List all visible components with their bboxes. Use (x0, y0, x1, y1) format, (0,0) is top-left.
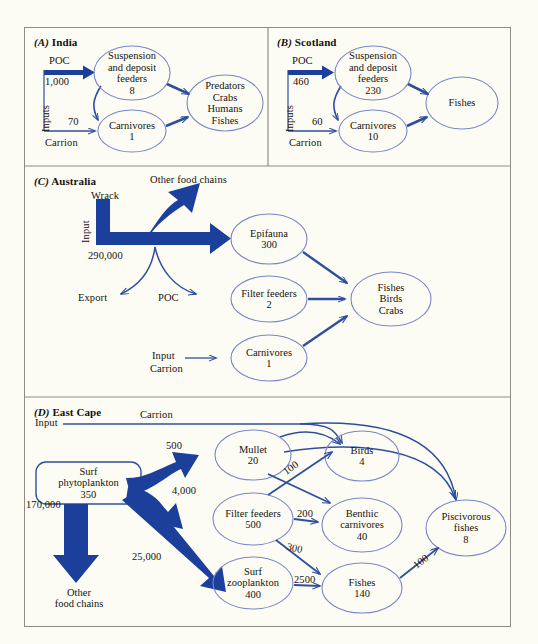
panel-d-carrion-label: Carrion (140, 409, 173, 420)
node-carnivores-b: Carnivores10 (341, 119, 405, 143)
panel-d-input-label: Input (35, 417, 58, 428)
panel-b-title: (B) Scotland (277, 36, 337, 48)
panel-c-carrion-input-label: Input (152, 350, 175, 361)
panel-b-inputs-label: Inputs (284, 105, 295, 132)
panel-a-carrion-value: 70 (68, 116, 79, 127)
arrow-carnivores-to-fishes-b (407, 117, 427, 126)
node-carnivores-a: Carnivores1 (100, 119, 164, 143)
node-suspension-deposit-feeders-b: Suspensionand depositfeeders230 (337, 50, 409, 96)
node-mullet-d: Mullet20 (224, 443, 282, 467)
panel-a-poc-value: 1,000 (45, 76, 69, 87)
panel-d-other-food-chains-label: Otherfood chains (44, 586, 114, 610)
panel-d-value-other-food-chains: 170,000 (26, 499, 61, 510)
panel-b-carrion-value: 60 (312, 116, 323, 127)
panel-b-poc-label: POC (292, 55, 313, 66)
node-benthic-carnivores-d: Benthiccarnivores40 (326, 507, 398, 543)
panel-c-other-food-chains-label: Other food chains (150, 174, 227, 185)
arrow-feeders-to-fishes-b (408, 84, 428, 94)
node-piscivorous-fishes-d: Piscivorousfishes8 (430, 510, 502, 546)
node-fishes-birds-crabs-c: FishesBirdsCrabs (361, 281, 421, 317)
node-suspension-deposit-feeders-a: Suspensionand depositfeeders8 (96, 50, 168, 96)
panel-c-wrack-value: 290,000 (88, 250, 123, 261)
panel-a-carrion-label: Carrion (45, 137, 78, 148)
node-filter-feeders-d: Filter feeders500 (216, 507, 290, 531)
node-surf-zooplankton-d: Surfzooplankton400 (216, 565, 290, 601)
panel-c-poc-label: POC (158, 292, 179, 303)
panel-d-value-zoo-to-fishes: 2500 (294, 574, 315, 585)
panel-c-title: (C) Australia (34, 175, 96, 187)
panel-d-value-mullet: 500 (166, 440, 182, 451)
panel-c-input-label: Input (80, 220, 91, 243)
node-carnivores-c: Carnivores1 (236, 346, 302, 370)
panel-d-value-filter-to-benthic: 200 (297, 508, 313, 519)
arrow-zoo-to-fishes-d (294, 585, 320, 586)
arrow-epifauna-to-top-c (303, 252, 347, 283)
panel-a-title: (A) India (34, 36, 77, 48)
panel-d-value-surf-zooplankton: 25,000 (132, 551, 161, 562)
arrow-carnivores-to-top-c (303, 316, 347, 346)
node-filter-feeders-c: Filter feeders2 (232, 287, 306, 311)
node-surf-phytoplankton-d: Surfphytoplankton350 (40, 465, 137, 501)
panel-a-inputs-label: Inputs (40, 105, 51, 132)
arrow-filter-to-benthic-d (294, 519, 318, 522)
curve-poc-to-filter-c (155, 247, 196, 294)
arrow-carnivores-to-predators-a (166, 117, 188, 126)
panel-b-carrion-label: Carrion (289, 137, 322, 148)
arrow-feeders-to-predators-a (167, 84, 189, 94)
panel-c-wrack-label: Wrack (91, 190, 119, 201)
arrow-phyto-to-other-d (53, 504, 99, 583)
panel-c-carrion-label: Carrion (150, 363, 183, 374)
arrow-phyto-to-zoo-d (122, 488, 226, 592)
node-birds-d: Birds4 (336, 444, 388, 468)
panel-b-poc-value: 460 (293, 76, 309, 87)
node-epifauna-c: Epifauna300 (236, 227, 302, 251)
panel-d-value-filter-feeders: 4,000 (172, 485, 196, 496)
panel-c-export-label: Export (78, 292, 107, 303)
node-fishes-b: Fishes (434, 97, 490, 109)
food-web-figure: (A) India POC 1,000 Inputs 70 Carrion Su… (0, 0, 538, 644)
node-fishes-d: Fishes140 (334, 576, 390, 600)
curve-poc-split-c (121, 247, 155, 294)
panel-a-poc-label: POC (49, 55, 70, 66)
node-predators-a: PredatorsCrabsHumansFishes (192, 80, 258, 126)
